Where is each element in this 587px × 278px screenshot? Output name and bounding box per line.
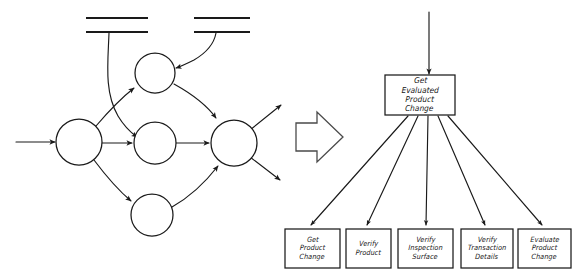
block-arrow-right-icon xyxy=(296,112,343,162)
module-box-leaf-3[interactable] xyxy=(398,229,453,268)
flow-store2-to-process2 xyxy=(176,33,216,68)
flow-process5-to-process4 xyxy=(172,166,218,207)
figure-canvas: Get Evaluated Product Change Get Product… xyxy=(0,0,587,278)
module-box-leaf-5[interactable] xyxy=(518,229,571,268)
module-box-root[interactable] xyxy=(385,75,455,115)
process-bubble-1 xyxy=(56,119,102,165)
flow-process2-to-process4 xyxy=(174,84,216,118)
flow-store1-to-process3 xyxy=(108,33,137,137)
connector-root-to-leaf-2 xyxy=(367,116,418,225)
process-bubble-5 xyxy=(131,194,173,236)
data-store-2 xyxy=(194,18,250,32)
data-flow-diagram xyxy=(16,18,281,236)
module-box-leaf-1[interactable] xyxy=(285,229,340,268)
module-box-leaf-2[interactable] xyxy=(346,229,391,268)
flow-process1-to-process2 xyxy=(96,88,134,126)
flow-process4-output-upper xyxy=(250,105,281,130)
module-box-leaf-4[interactable] xyxy=(461,229,513,268)
data-store-1 xyxy=(86,18,148,32)
process-bubble-2 xyxy=(135,53,175,93)
process-bubble-3 xyxy=(134,122,176,164)
process-bubble-4 xyxy=(211,120,257,166)
figure-vector-layer xyxy=(0,0,587,278)
flow-process4-output-lower xyxy=(250,157,280,180)
connector-root-to-leaf-3 xyxy=(426,116,428,225)
flow-process1-to-process5 xyxy=(94,160,131,201)
